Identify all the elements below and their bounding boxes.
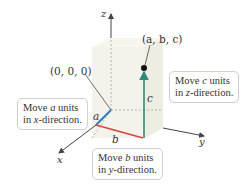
y-axis-label: y	[198, 136, 205, 147]
origin-label: (0, 0, 0)	[50, 65, 92, 77]
y-axis	[163, 128, 204, 136]
x-axis-label: x	[57, 154, 63, 165]
callout-z-direction: Move c units in z-direction.	[169, 71, 239, 103]
point-abc	[141, 65, 147, 71]
rectangular-box	[92, 38, 163, 138]
z-axis-label: z	[100, 8, 107, 19]
coordinate-diagram: z y x (0, 0, 0) (a, b, c) a b c Move a u…	[0, 0, 248, 191]
b-label: b	[112, 133, 119, 145]
a-label: a	[93, 110, 99, 122]
c-label: c	[147, 92, 153, 104]
callout-y-direction: Move b units in y-direction.	[92, 148, 163, 180]
callout-x-direction: Move a units in x-direction.	[17, 98, 88, 130]
point-label: (a, b, c)	[142, 33, 182, 45]
